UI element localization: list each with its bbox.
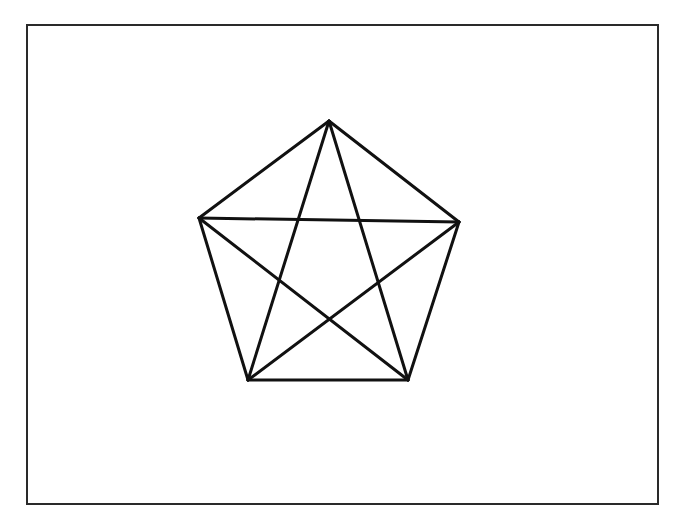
- edge-top-right: [329, 121, 459, 222]
- edge-left-bottom-right: [199, 218, 408, 380]
- edge-bottom-left-left: [199, 218, 248, 380]
- edge-left-right: [199, 218, 459, 222]
- edge-top-bottom-left: [248, 121, 329, 380]
- edge-right-bottom-left: [248, 222, 459, 380]
- pentagon-diagonals-diagram: [0, 0, 680, 527]
- edge-top-bottom-right: [329, 121, 408, 380]
- edge-right-bottom-right: [408, 222, 459, 380]
- edge-left-top: [199, 121, 329, 218]
